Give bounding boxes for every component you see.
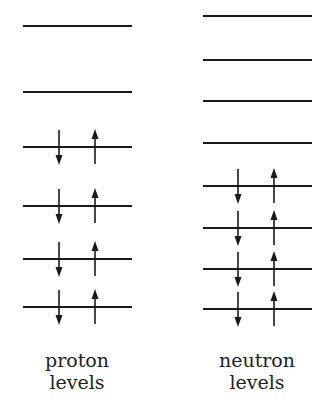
proton-label-line2: levels: [17, 371, 137, 393]
neutron-label: neutron levels: [197, 349, 317, 393]
energy-level: [203, 251, 312, 287]
energy-level: [203, 291, 312, 327]
proton-label: proton levels: [17, 349, 137, 393]
energy-level: [23, 188, 132, 224]
neutron-label-line1: neutron: [197, 349, 317, 371]
proton-label-line1: proton: [17, 349, 137, 371]
energy-level: [203, 210, 312, 246]
energy-level: [23, 289, 132, 325]
energy-level: [23, 129, 132, 165]
energy-level: [23, 241, 132, 277]
neutron-levels: [203, 16, 312, 327]
neutron-label-line2: levels: [197, 371, 317, 393]
proton-levels: [23, 26, 132, 325]
energy-level: [203, 168, 312, 204]
